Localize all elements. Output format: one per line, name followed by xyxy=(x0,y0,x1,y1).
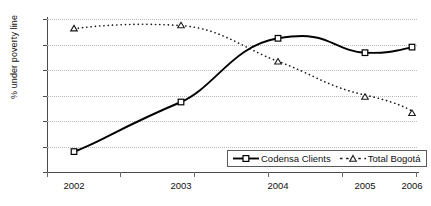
y-axis-title: % under poverty line xyxy=(9,0,19,127)
dotted-line-triangle-marker-icon xyxy=(340,153,366,164)
total-bogota-line xyxy=(74,24,412,111)
xtick-label-2002: 2002 xyxy=(52,180,96,191)
legend-item-codensa-clients[interactable]: Codensa Clients xyxy=(233,153,331,164)
legend-label-codensa-clients: Codensa Clients xyxy=(261,153,331,164)
xtick-label-2005: 2005 xyxy=(343,180,387,191)
legend-label-total-bogota: Total Bogotá xyxy=(368,153,421,164)
xtick-label-2006: 2006 xyxy=(390,180,431,191)
xtick-mark-origin xyxy=(47,172,48,177)
solid-line-square-marker-icon xyxy=(233,153,259,164)
total-bogota-markers xyxy=(71,22,416,115)
xtick-label-2003: 2003 xyxy=(159,180,203,191)
legend: Codensa Clients Total Bogotá xyxy=(227,150,427,167)
legend-item-total-bogota[interactable]: Total Bogotá xyxy=(340,153,421,164)
x-axis-line xyxy=(44,172,419,173)
xtick-mark-5 xyxy=(416,172,417,177)
xtick-mark-1 xyxy=(120,172,121,177)
xtick-label-2004: 2004 xyxy=(256,180,300,191)
xtick-mark-2 xyxy=(194,172,195,177)
xtick-mark-4 xyxy=(342,172,343,177)
xtick-mark-3 xyxy=(268,172,269,177)
